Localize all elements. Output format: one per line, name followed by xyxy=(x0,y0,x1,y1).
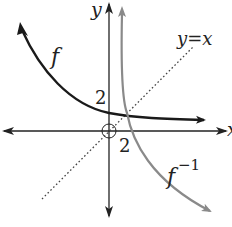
y-axis-label: y xyxy=(90,0,102,20)
curve-f-inverse-label: f −1 xyxy=(165,156,200,189)
x-intercept-label: 2 xyxy=(119,135,130,156)
f-inverse-superscript: −1 xyxy=(178,156,200,174)
graph-canvas: y x f y=x 2 2 f −1 xyxy=(0,0,232,227)
y-intercept-label: 2 xyxy=(95,87,106,108)
identity-label: y=x xyxy=(176,28,212,49)
f-inverse-base: f xyxy=(165,164,179,189)
x-axis-label: x xyxy=(227,118,232,140)
curve-f-label: f xyxy=(49,44,63,69)
